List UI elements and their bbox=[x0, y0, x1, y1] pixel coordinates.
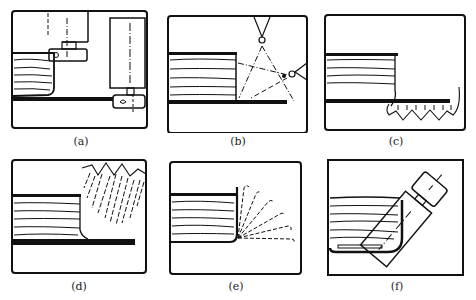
panel-a-drawing bbox=[10, 8, 152, 133]
caption-d: (d) bbox=[10, 280, 148, 293]
panel-e: (e) bbox=[168, 160, 304, 290]
panel-b: (b) bbox=[166, 8, 310, 138]
panel-c: (c) bbox=[323, 12, 469, 142]
panel-f-drawing bbox=[326, 158, 468, 278]
caption-e: (e) bbox=[168, 280, 304, 293]
panel-e-drawing bbox=[168, 160, 304, 278]
panel-f: (f) bbox=[326, 158, 468, 288]
panel-b-drawing bbox=[166, 8, 310, 133]
caption-b: (b) bbox=[166, 135, 310, 148]
panel-c-drawing bbox=[323, 12, 469, 132]
panel-d: (d) bbox=[10, 158, 148, 288]
caption-f: (f) bbox=[326, 280, 468, 293]
caption-c: (c) bbox=[323, 135, 469, 148]
panel-d-drawing bbox=[10, 158, 148, 278]
caption-a: (a) bbox=[10, 135, 152, 148]
panel-a: (a) bbox=[10, 8, 152, 133]
